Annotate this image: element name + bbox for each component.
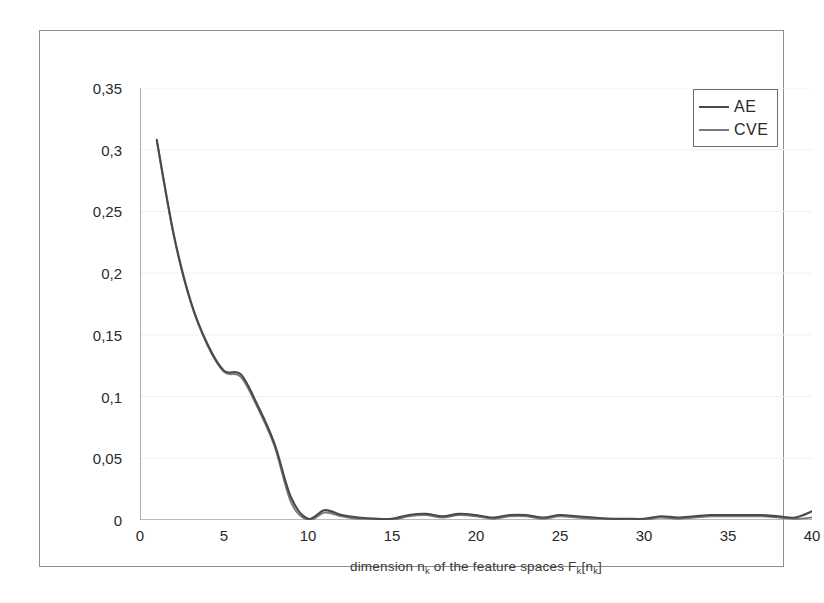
y-tick-label: 0,3 <box>101 141 122 158</box>
y-tick-label: 0,2 <box>101 265 122 282</box>
y-axis-tick-labels: 00,050,10,150,20,250,30,35 <box>60 88 132 520</box>
x-tick-label: 40 <box>804 527 821 544</box>
legend-label-cve: CVE <box>734 121 768 139</box>
series-line-ae <box>157 140 812 519</box>
x-tick-label: 35 <box>720 527 737 544</box>
x-tick-label: 5 <box>220 527 228 544</box>
x-tick-label: 20 <box>468 527 485 544</box>
x-tick-label: 30 <box>636 527 653 544</box>
y-tick-label: 0,25 <box>93 203 122 220</box>
legend-line-swatch-ae <box>699 106 729 108</box>
plot-area <box>140 88 812 520</box>
legend-line-swatch-cve <box>699 129 729 131</box>
legend-item-cve: CVE <box>699 118 768 141</box>
figure-frame: 00,050,10,150,20,250,30,35 0510152025303… <box>39 30 784 567</box>
legend-item-ae: AE <box>699 95 768 118</box>
x-tick-label: 25 <box>552 527 569 544</box>
x-axis-tick-labels: 0510152025303540 <box>140 527 812 551</box>
y-tick-label: 0,35 <box>93 80 122 97</box>
x-tick-label: 0 <box>136 527 144 544</box>
y-tick-label: 0,15 <box>93 326 122 343</box>
chart-canvas <box>140 88 812 520</box>
x-axis-title: dimension nk of the feature spaces Fk[nk… <box>140 559 812 574</box>
y-tick-label: 0 <box>114 512 122 529</box>
x-tick-label: 10 <box>300 527 317 544</box>
x-tick-label: 15 <box>384 527 401 544</box>
legend-label-ae: AE <box>734 98 756 116</box>
series-line-cve <box>157 141 812 520</box>
chart-legend: AE CVE <box>693 89 778 147</box>
y-tick-label: 0,1 <box>101 388 122 405</box>
y-tick-label: 0,05 <box>93 450 122 467</box>
